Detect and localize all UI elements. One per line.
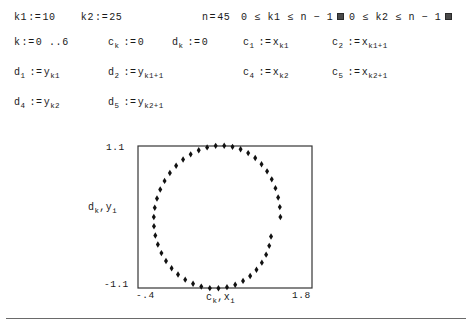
def-d4-name: d xyxy=(14,97,21,108)
constraint-k2[interactable]: 0 ≤ k2 ≤ n − 1 xyxy=(349,12,452,23)
x-axis-label-main-subscript: k xyxy=(213,297,218,305)
def-c5-value-subscript: k2+1 xyxy=(368,72,387,80)
def-d1-op: := xyxy=(25,67,43,78)
definition-row-1: k1:=10 k2:=25 xyxy=(14,12,122,23)
x-axis-label-main: c xyxy=(206,292,213,303)
def-c5-op: := xyxy=(343,67,361,78)
def-k2-value: 25 xyxy=(109,12,122,23)
x-axis-label: ck,xi xyxy=(206,292,235,303)
def-k1-name: k1 xyxy=(14,12,27,23)
def-dk-op: := xyxy=(183,37,201,48)
def-c1-subscript: 1 xyxy=(250,42,255,50)
def-ck-subscript: k xyxy=(115,42,120,50)
def-k1[interactable]: k1:=10 xyxy=(14,12,56,23)
definition-n[interactable]: n=45 xyxy=(202,12,230,23)
def-c2-value-subscript: k1+1 xyxy=(368,42,387,50)
def-c1-name: c xyxy=(243,37,250,48)
def-dk-name: d xyxy=(172,37,179,48)
horizontal-rule xyxy=(6,318,466,319)
def-d2-value-subscript: k1+1 xyxy=(144,72,163,80)
def-d4-value-subscript: k2 xyxy=(50,102,60,110)
definition-d1[interactable]: d1:=yk1 xyxy=(14,67,60,78)
evaluation-box-icon[interactable] xyxy=(337,13,344,20)
def-k-op: := xyxy=(21,37,36,48)
def-n-name: n xyxy=(202,12,209,23)
x-axis-label-second-subscript: i xyxy=(230,297,235,305)
def-k1-value: 10 xyxy=(42,12,55,23)
def-d2-subscript: 2 xyxy=(115,72,120,80)
x-axis-max-tick: 1.8 xyxy=(292,290,311,301)
constraint-k1[interactable]: 0 ≤ k1 ≤ n − 1 xyxy=(241,12,344,23)
chart-canvas[interactable] xyxy=(0,140,472,310)
def-c1-op: := xyxy=(254,37,272,48)
def-c2-op: := xyxy=(343,37,361,48)
definition-c2[interactable]: c2:=xk1+1 xyxy=(332,37,387,48)
def-c4-subscript: 4 xyxy=(250,72,255,80)
def-n-value: 45 xyxy=(217,12,230,23)
constraint-k2-text: 0 ≤ k2 ≤ n − 1 xyxy=(349,12,441,23)
def-k-name: k xyxy=(14,37,21,48)
def-d1-value-subscript: k1 xyxy=(50,72,60,80)
def-d1-name: d xyxy=(14,67,21,78)
def-k-value: 0 ..6 xyxy=(36,37,69,48)
def-d5-value-subscript: k2+1 xyxy=(144,102,163,110)
def-k1-op: := xyxy=(27,12,42,23)
constraint-k1-text: 0 ≤ k1 ≤ n − 1 xyxy=(241,12,333,23)
definition-d5[interactable]: d5:=yk2+1 xyxy=(108,97,163,108)
def-d4-subscript: 4 xyxy=(21,102,26,110)
def-k2-op: := xyxy=(94,12,109,23)
def-d5-name: d xyxy=(108,97,115,108)
y-axis-label: dk,yi xyxy=(88,202,117,213)
y-axis-label-second-subscript: i xyxy=(112,207,117,215)
y-axis-label-main-subscript: k xyxy=(95,207,100,215)
def-d4-op: := xyxy=(25,97,43,108)
plot-region[interactable]: 1.1 -1.1 -.4 1.8 dk,yi ck,xi xyxy=(0,140,472,310)
def-dk-value: 0 xyxy=(202,37,209,48)
def-ck-value: 0 xyxy=(138,37,145,48)
plot-frame xyxy=(138,146,312,288)
def-d1-subscript: 1 xyxy=(21,72,26,80)
def-c5-name: c xyxy=(332,67,339,78)
evaluation-box-icon[interactable] xyxy=(445,13,452,20)
definition-d2[interactable]: d2:=yk1+1 xyxy=(108,67,163,78)
def-ck-name: c xyxy=(108,37,115,48)
def-d2-op: := xyxy=(119,67,137,78)
def-n: n=45 xyxy=(202,12,230,23)
definition-d-sub-k[interactable]: dk:=0 xyxy=(172,37,208,48)
def-c2-subscript: 2 xyxy=(339,42,344,50)
def-k2-name: k2 xyxy=(81,12,94,23)
definition-d4[interactable]: d4:=yk2 xyxy=(14,97,60,108)
def-c4-value-subscript: k2 xyxy=(279,72,289,80)
def-c2-name: c xyxy=(332,37,339,48)
y-axis-label-main: d xyxy=(88,202,95,213)
def-c4-op: := xyxy=(254,67,272,78)
def-d5-subscript: 5 xyxy=(115,102,120,110)
worksheet: k1:=10 k2:=25 n=45 0 ≤ k1 ≤ n − 1 0 ≤ k2… xyxy=(0,0,472,328)
def-c4-name: c xyxy=(243,67,250,78)
def-d2-name: d xyxy=(108,67,115,78)
def-k2[interactable]: k2:=25 xyxy=(81,12,123,23)
def-c1-value-subscript: k1 xyxy=(279,42,289,50)
definition-c4[interactable]: c4:=xk2 xyxy=(243,67,289,78)
x-axis-min-tick: -.4 xyxy=(136,290,155,301)
def-d5-op: := xyxy=(119,97,137,108)
y-axis-min-tick: -1.1 xyxy=(104,279,129,290)
definition-c-sub-k[interactable]: ck:=0 xyxy=(108,37,144,48)
definition-k-range[interactable]: k:=0 ..6 xyxy=(14,37,69,48)
def-ck-op: := xyxy=(119,37,137,48)
def-dk-subscript: k xyxy=(179,42,184,50)
def-c5-subscript: 5 xyxy=(339,72,344,80)
definition-c5[interactable]: c5:=xk2+1 xyxy=(332,67,387,78)
definition-c1[interactable]: c1:=xk1 xyxy=(243,37,289,48)
y-axis-max-tick: 1.1 xyxy=(106,142,125,153)
def-n-op: = xyxy=(209,12,218,23)
